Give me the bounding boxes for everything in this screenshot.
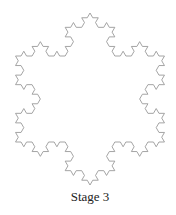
stage-caption: Stage 3 bbox=[0, 189, 176, 205]
koch-snowflake-outline bbox=[16, 13, 165, 185]
koch-snowflake-figure bbox=[0, 0, 176, 215]
